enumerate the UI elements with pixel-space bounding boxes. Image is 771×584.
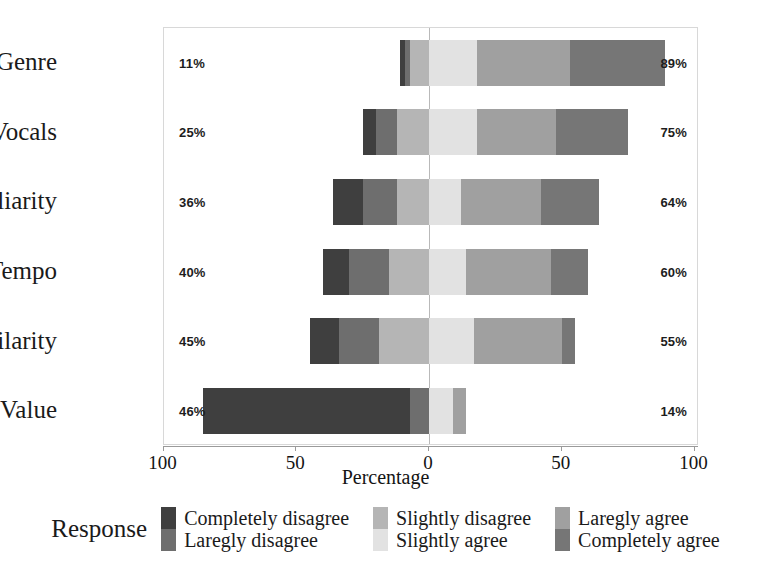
bar-segment: [429, 179, 461, 225]
category-label-value: Value: [0, 397, 57, 422]
legend-group: Completely disagreeLaregly disagree: [161, 507, 349, 551]
bar-segment: [562, 318, 575, 364]
bar-segment: [349, 249, 389, 295]
bar-row: 11%89%: [164, 28, 697, 98]
chart-root: GenreVocalsFamiliarityTempoSimilarityVal…: [0, 0, 771, 584]
row-negative-total-label: 11%: [179, 55, 205, 70]
category-label-genre: Genre: [0, 49, 57, 74]
legend-swatches: [161, 507, 176, 551]
x-tick-mark: [163, 446, 164, 451]
stacked-bar: [164, 179, 697, 225]
category-label-tempo: Tempo: [0, 258, 57, 283]
bar-segment: [363, 109, 376, 155]
bar-segment: [397, 109, 429, 155]
bar-segment: [556, 109, 628, 155]
stacked-bar: [164, 40, 697, 86]
row-positive-total-label: 55%: [660, 334, 687, 349]
legend-item-label[interactable]: Laregly agree: [578, 507, 720, 529]
category-label-familiarity: Familiarity: [0, 188, 57, 213]
bar-segment: [397, 179, 429, 225]
category-label-vocals: Vocals: [0, 119, 57, 144]
legend-swatch: [373, 507, 388, 529]
row-positive-total-label: 89%: [660, 55, 687, 70]
row-positive-total-label: 75%: [660, 125, 687, 140]
x-axis: [163, 446, 698, 447]
stacked-bar: [164, 388, 697, 434]
legend-swatch: [555, 507, 570, 529]
bar-row: 36%64%: [164, 167, 697, 237]
legend-item-label[interactable]: Slightly agree: [396, 529, 531, 551]
legend-groups: Completely disagreeLaregly disagreeSligh…: [161, 507, 720, 551]
row-negative-total-label: 46%: [179, 404, 206, 419]
row-negative-total-label: 36%: [179, 195, 206, 210]
x-tick-mark: [428, 446, 429, 451]
bar-segment: [333, 179, 362, 225]
x-tick-mark: [295, 446, 296, 451]
bar-segment: [429, 249, 466, 295]
legend-title: Response: [51, 515, 147, 543]
bar-segment: [429, 318, 474, 364]
bar-segment: [429, 40, 477, 86]
row-negative-total-label: 40%: [179, 264, 206, 279]
bar-segment: [429, 388, 453, 434]
bar-segment: [400, 40, 405, 86]
bar-segment: [376, 109, 397, 155]
bar-segment: [203, 388, 410, 434]
legend-item-label[interactable]: Completely agree: [578, 529, 720, 551]
bar-segment: [410, 388, 429, 434]
row-positive-total-label: 14%: [660, 404, 687, 419]
bar-segment: [389, 249, 429, 295]
bar-segment: [379, 318, 429, 364]
bar-row: 45%55%: [164, 307, 697, 377]
category-label-similarity: Similarity: [0, 328, 57, 353]
bar-row: 46%14%: [164, 376, 697, 446]
legend-swatches: [555, 507, 570, 551]
row-positive-total-label: 60%: [660, 264, 687, 279]
bar-segment: [541, 179, 599, 225]
legend-item-label[interactable]: Slightly disagree: [396, 507, 531, 529]
legend-swatch: [373, 529, 388, 551]
bar-segment: [363, 179, 398, 225]
x-tick-mark: [694, 446, 695, 451]
bar-segment: [323, 249, 350, 295]
bar-segment: [474, 318, 562, 364]
x-axis-title: Percentage: [0, 466, 771, 489]
bar-segment: [551, 249, 588, 295]
bar-segment: [461, 179, 541, 225]
legend-swatches: [373, 507, 388, 551]
bar-segment: [410, 40, 429, 86]
stacked-bar: [164, 249, 697, 295]
x-tick-mark: [561, 446, 562, 451]
stacked-bar: [164, 109, 697, 155]
bar-segment: [466, 249, 551, 295]
row-positive-total-label: 64%: [660, 195, 687, 210]
legend-labels: Slightly disagreeSlightly agree: [396, 507, 531, 551]
legend-group: Laregly agreeCompletely agree: [555, 507, 720, 551]
bar-segment: [570, 40, 666, 86]
bar-segment: [339, 318, 379, 364]
legend-swatch: [555, 529, 570, 551]
legend-labels: Laregly agreeCompletely agree: [578, 507, 720, 551]
bar-row: 40%60%: [164, 237, 697, 307]
legend-group: Slightly disagreeSlightly agree: [373, 507, 531, 551]
bar-segment: [477, 109, 557, 155]
bar-segment: [453, 388, 466, 434]
row-negative-total-label: 25%: [179, 125, 206, 140]
row-negative-total-label: 45%: [179, 334, 206, 349]
legend-swatch: [161, 507, 176, 529]
stacked-bar: [164, 318, 697, 364]
legend: Response Completely disagreeLaregly disa…: [0, 498, 771, 560]
plot-area: 11%89%25%75%36%64%40%60%45%55%46%14%: [163, 27, 698, 445]
bar-row: 25%75%: [164, 98, 697, 168]
bar-segment: [429, 109, 477, 155]
bar-segment: [405, 40, 410, 86]
legend-swatch: [161, 529, 176, 551]
bar-segment: [310, 318, 339, 364]
bar-segment: [477, 40, 570, 86]
legend-item-label[interactable]: Laregly disagree: [184, 529, 349, 551]
legend-labels: Completely disagreeLaregly disagree: [184, 507, 349, 551]
legend-item-label[interactable]: Completely disagree: [184, 507, 349, 529]
